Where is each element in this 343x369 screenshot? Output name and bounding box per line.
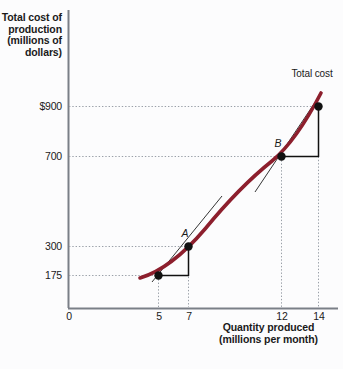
series-label-line-1: Total cost — [291, 68, 332, 79]
x-tick-label-0: 0 — [56, 311, 82, 323]
y-tick-label-900: $900 — [14, 101, 62, 113]
y-tick-label-300: 300 — [14, 241, 62, 253]
x-tick-label-7: 7 — [176, 311, 202, 323]
point-label-a: A — [177, 228, 193, 240]
y-axis-title-line-3: (millions of — [7, 34, 62, 46]
x-axis-title-line-1: Quantity produced — [223, 321, 315, 333]
total-cost-curve — [140, 93, 321, 278]
chart-figure: Total cost ofproduction(millions ofdolla… — [0, 0, 343, 369]
x-tick-label-12: 12 — [269, 311, 295, 323]
x-tick-label-5: 5 — [146, 311, 172, 323]
point-label-b: B — [270, 138, 286, 150]
marker-point-b — [277, 152, 285, 160]
y-axis-title-line-2: production — [8, 23, 62, 35]
y-axis-title-line-4: dollars) — [25, 46, 62, 58]
x-tick-label-14: 14 — [306, 311, 332, 323]
y-tick-label-175: 175 — [14, 270, 62, 282]
marker-point-a — [184, 242, 192, 250]
y-axis-title: Total cost ofproduction(millions ofdolla… — [0, 12, 62, 58]
marker-5-175 — [154, 271, 162, 279]
marker-14-900 — [314, 102, 322, 110]
y-tick-label-700: 700 — [14, 151, 62, 163]
x-axis-title-line-2: (millions per month) — [219, 333, 318, 345]
tangent-lines — [152, 92, 322, 282]
series-label-total-cost: Total cost — [286, 68, 338, 80]
y-axis-title-line-1: Total cost of — [2, 11, 62, 23]
slope-triangle-b — [281, 107, 319, 157]
x-axis-title: Quantity produced(millions per month) — [196, 322, 341, 345]
